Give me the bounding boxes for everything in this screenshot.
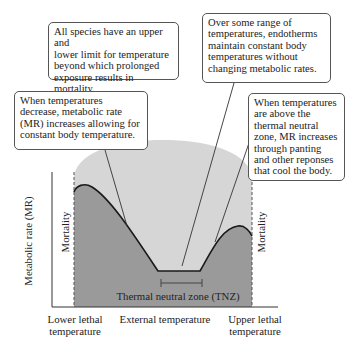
callout-constant-range: Over some range of temperatures, endothe… [202,13,331,83]
thermoregulation-diagram: All species have an upper and lower limi… [0,0,357,350]
callout-heat-response: When temperatures are above the thermal … [248,93,345,181]
callout-cold-response: When temperatures decrease, metabolic ra… [14,91,148,150]
upper-lethal-label: Upper lethal temperature [215,313,295,337]
tnz-label: Thermal neutral zone (TNZ) [98,290,258,302]
callout-lethal-limits: All species have an upper and lower limi… [48,22,179,80]
left-mortality-label: Mortality [59,207,71,257]
y-axis-label: Metabolic rate (MR) [22,191,34,291]
right-mortality-label: Mortality [255,207,267,257]
x-axis-label: External temperature [115,313,215,325]
lower-lethal-label: Lower lethal temperature [35,313,115,337]
